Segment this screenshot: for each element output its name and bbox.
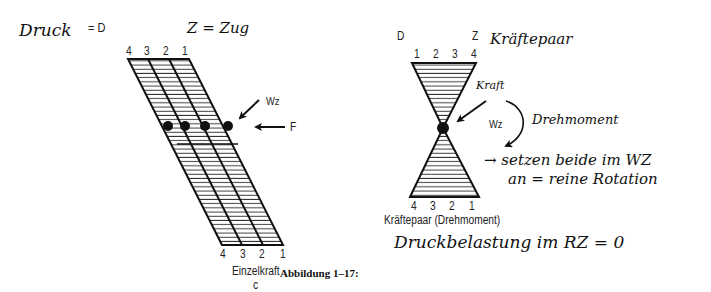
label-wz-right: Wz bbox=[489, 118, 503, 130]
hourglass-force-couple bbox=[410, 63, 523, 197]
label-d-right: D bbox=[397, 29, 404, 43]
left-bottom-number-2: 2 bbox=[259, 247, 265, 261]
right-bottom-number-2: 2 bbox=[449, 199, 455, 213]
left-bottom-number-4: 4 bbox=[220, 247, 226, 261]
left-bottom-number-1: 1 bbox=[280, 247, 286, 261]
right-bottom-number-4: 4 bbox=[411, 199, 417, 213]
right-top-number-3: 3 bbox=[452, 47, 458, 61]
label-z-zug: Z = Zug bbox=[187, 19, 249, 37]
label-z-right: Z bbox=[472, 29, 478, 43]
label-equals-d: = D bbox=[88, 20, 106, 35]
handwritten-kraft: Kraft bbox=[476, 79, 505, 92]
parallelogram-beam bbox=[128, 59, 285, 245]
handwritten-kraeftepaar: Kräftepaar bbox=[490, 30, 572, 48]
subtitle-einzelkraft: Einzelkraft bbox=[232, 264, 280, 278]
right-top-number-4: 4 bbox=[471, 47, 477, 61]
right-top-number-2: 2 bbox=[433, 47, 439, 61]
handwritten-note-line1: → setzen beide im WZ bbox=[484, 151, 651, 169]
sublabel-c: c bbox=[253, 278, 258, 292]
figure-caption: Abbildung 1–17: bbox=[280, 267, 359, 279]
left-top-number-1: 1 bbox=[182, 44, 188, 58]
handwritten-druckbelastung: Druckbelastung im RZ = 0 bbox=[394, 232, 624, 252]
label-wz-left: Wz bbox=[266, 95, 280, 107]
right-bottom-number-3: 3 bbox=[430, 199, 436, 213]
left-bottom-number-3: 3 bbox=[240, 247, 246, 261]
right-top-number-1: 1 bbox=[414, 47, 420, 61]
right-bottom-number-1: 1 bbox=[469, 199, 475, 213]
subtitle-kraeftepaar-drehmoment: Kräftepaar (Drehmoment) bbox=[384, 213, 500, 227]
left-top-number-3: 3 bbox=[144, 44, 150, 58]
left-top-number-4: 4 bbox=[126, 44, 132, 58]
label-f: F bbox=[290, 120, 296, 134]
handwritten-druck: Druck bbox=[19, 20, 72, 40]
handwritten-note-line2: an = reine Rotation bbox=[508, 170, 658, 188]
left-top-number-2: 2 bbox=[163, 44, 169, 58]
handwritten-drehmoment: Drehmoment bbox=[532, 112, 618, 127]
